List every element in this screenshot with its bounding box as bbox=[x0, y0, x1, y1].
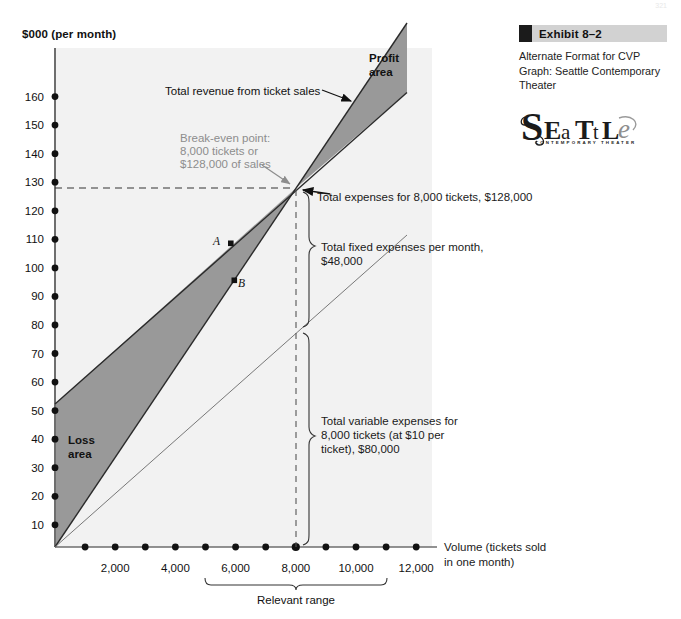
x-axis-title: Volume (tickets sold in one month) bbox=[444, 540, 546, 569]
relevant-range-label: Relevant range bbox=[257, 594, 335, 606]
loss-area-label-line2: area bbox=[68, 448, 92, 460]
fixed-expenses-line1: Total fixed expenses per month, bbox=[321, 240, 483, 254]
svg-text:110: 110 bbox=[26, 233, 44, 245]
svg-text:80: 80 bbox=[31, 319, 44, 331]
svg-text:40: 40 bbox=[31, 433, 44, 445]
x-axis-title-line2: in one month) bbox=[444, 555, 546, 570]
profit-area-label-line1: Profit bbox=[369, 52, 399, 64]
variable-expenses-line1: Total variable expenses for bbox=[321, 414, 458, 428]
variable-expenses-line3: ticket), $80,000 bbox=[321, 442, 458, 456]
y-axis-ticks: 160 150 140 130 120 110 100 90 80 70 60 … bbox=[25, 91, 59, 531]
revenue-line-label: Total revenue from ticket sales bbox=[165, 85, 321, 97]
svg-text:70: 70 bbox=[31, 348, 44, 360]
svg-text:2,000: 2,000 bbox=[101, 562, 130, 574]
svg-text:100: 100 bbox=[25, 262, 44, 274]
svg-text:30: 30 bbox=[31, 462, 44, 474]
profit-area-label-line2: area bbox=[369, 66, 393, 78]
exhibit-caption: Alternate Format for CVP Graph: Seattle … bbox=[519, 49, 669, 93]
marker-b-label: B bbox=[238, 277, 245, 289]
y-axis-title: $000 (per month) bbox=[22, 28, 116, 40]
logo-tagline: CONTEMPORARY THEATER bbox=[535, 140, 636, 145]
cvp-chart: $000 (per month) bbox=[0, 0, 500, 619]
breakeven-label-line1: Break-even point: bbox=[180, 132, 270, 144]
plot-background bbox=[55, 48, 432, 547]
loss-area-label-line1: Loss bbox=[68, 434, 95, 446]
logo-graphic: S E a T t L e bbox=[519, 106, 667, 152]
marker-b-point bbox=[232, 278, 238, 284]
svg-text:6,000: 6,000 bbox=[221, 562, 250, 574]
exhibit-label: Exhibit 8–2 bbox=[532, 28, 602, 40]
svg-text:140: 140 bbox=[25, 148, 44, 160]
svg-text:20: 20 bbox=[31, 490, 44, 502]
svg-text:60: 60 bbox=[31, 376, 44, 388]
fixed-expenses-line2: $48,000 bbox=[321, 254, 483, 268]
breakeven-label-line3: $128,000 of sales bbox=[180, 158, 271, 170]
svg-text:4,000: 4,000 bbox=[161, 562, 190, 574]
breakeven-label-line2: 8,000 tickets or bbox=[180, 145, 258, 157]
svg-text:90: 90 bbox=[31, 290, 44, 302]
svg-text:120: 120 bbox=[25, 205, 44, 217]
exhibit-marker-square bbox=[519, 25, 532, 42]
svg-text:150: 150 bbox=[25, 119, 44, 131]
marker-a-point bbox=[228, 241, 234, 247]
chart-canvas: 160 150 140 130 120 110 100 90 80 70 60 … bbox=[0, 0, 500, 619]
svg-text:10: 10 bbox=[31, 519, 44, 531]
svg-text:50: 50 bbox=[31, 405, 44, 417]
variable-expenses-annotation: Total variable expenses for 8,000 ticket… bbox=[321, 414, 458, 456]
page-number: 321 bbox=[655, 2, 667, 9]
fixed-expenses-annotation: Total fixed expenses per month, $48,000 bbox=[321, 240, 483, 268]
x-axis-title-line1: Volume (tickets sold bbox=[444, 540, 546, 555]
relevant-range-brace bbox=[205, 578, 387, 590]
variable-expenses-line2: 8,000 tickets (at $10 per bbox=[321, 428, 458, 442]
exhibit-page: 321 $000 (per month) bbox=[0, 0, 681, 619]
marker-a-label: A bbox=[212, 235, 221, 247]
total-expenses-annotation: Total expenses for 8,000 tickets, $128,0… bbox=[317, 190, 532, 204]
svg-text:160: 160 bbox=[25, 91, 44, 103]
seattle-contemporary-theater-logo: S E a T t L e CONTEMPORARY THEATER bbox=[519, 106, 667, 152]
exhibit-header: Exhibit 8–2 bbox=[519, 25, 667, 42]
exhibit-panel: Exhibit 8–2 Alternate Format for CVP Gra… bbox=[519, 25, 671, 152]
svg-text:10,000: 10,000 bbox=[338, 562, 373, 574]
svg-text:8,000: 8,000 bbox=[281, 562, 310, 574]
svg-text:12,000: 12,000 bbox=[399, 562, 434, 574]
svg-text:130: 130 bbox=[25, 176, 44, 188]
